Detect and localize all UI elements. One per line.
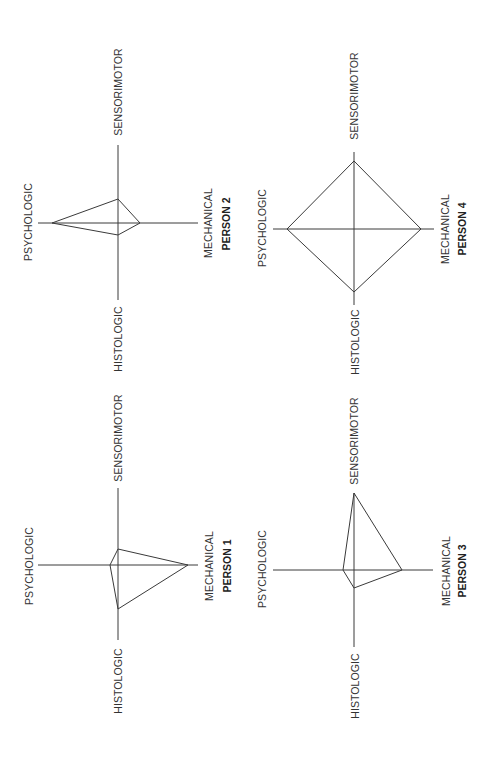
person-title: PERSON 4 [456,202,468,255]
axis-label-sensorimotor: SENSORIMOTOR [112,394,124,482]
axis-label-histologic: HISTOLOGIC [349,309,361,375]
axis-label-sensorimotor: SENSORIMOTOR [348,397,360,485]
axis-label-histologic: HISTOLOGIC [349,653,361,719]
profile-polygon [52,199,140,235]
axis-label-histologic: HISTOLOGIC [112,306,124,372]
diagram-person-4: SENSORIMOTORPSYCHOLOGICMECHANICALHISTOLO… [256,52,468,375]
diagram-person-1: SENSORIMOTORPSYCHOLOGICMECHANICALHISTOLO… [23,394,233,714]
axis-label-mechanical: MECHANICAL [440,536,452,606]
axis-label-psychologic: PSYCHOLOGIC [22,183,34,261]
axis-label-sensorimotor: SENSORIMOTOR [348,52,360,140]
diagram-person-3: SENSORIMOTORPSYCHOLOGICMECHANICALHISTOLO… [256,397,468,719]
axis-label-sensorimotor: SENSORIMOTOR [112,48,124,136]
profile-polygon [343,493,402,588]
person-title: PERSON 2 [220,197,232,250]
axis-label-psychologic: PSYCHOLOGIC [256,189,268,267]
axis-label-psychologic: PSYCHOLOGIC [256,530,268,608]
diagram-person-2: SENSORIMOTORPSYCHOLOGICMECHANICALHISTOLO… [22,48,232,372]
axis-label-mechanical: MECHANICAL [439,194,451,264]
person-title: PERSON 1 [221,539,233,592]
dysfunction-profile-figure: SENSORIMOTORPSYCHOLOGICMECHANICALHISTOLO… [0,0,495,762]
profile-polygon [110,549,188,609]
axis-label-mechanical: MECHANICAL [202,188,214,258]
person-title: PERSON 3 [456,544,468,597]
axis-label-histologic: HISTOLOGIC [112,648,124,714]
axis-label-mechanical: MECHANICAL [203,531,215,601]
axis-label-psychologic: PSYCHOLOGIC [23,527,35,605]
